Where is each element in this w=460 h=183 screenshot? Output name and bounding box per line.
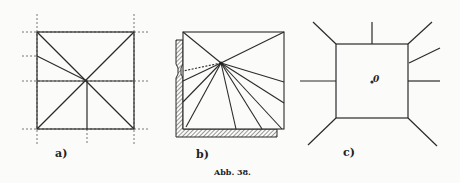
panel-c-diagram xyxy=(300,22,440,146)
figure-canvas xyxy=(0,0,460,183)
panel-a-label: a) xyxy=(55,147,67,160)
point-label: 0 xyxy=(373,74,379,84)
panel-b-diagram xyxy=(176,32,284,137)
panel-a-diagram xyxy=(22,14,150,144)
panel-b-label: b) xyxy=(196,148,209,161)
figure-caption: Abb. 38. xyxy=(214,167,251,177)
panel-c-label: c) xyxy=(343,146,355,159)
